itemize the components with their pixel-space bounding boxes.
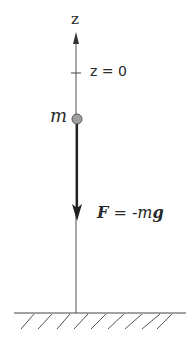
force-mass-symbol: m	[137, 203, 152, 222]
force-equation: F = -mg	[97, 203, 164, 222]
z-axis-arrow-icon	[73, 32, 79, 44]
mass-label: m	[50, 105, 67, 126]
force-symbol: F	[97, 203, 108, 222]
diagram-canvas	[0, 0, 196, 345]
gravity-symbol: g	[153, 203, 164, 222]
force-equals: = -	[108, 203, 137, 222]
z-axis-label: z	[71, 10, 79, 28]
zero-label: z = 0	[90, 63, 127, 79]
mass-point	[72, 114, 82, 124]
ground-hatching	[21, 314, 172, 329]
